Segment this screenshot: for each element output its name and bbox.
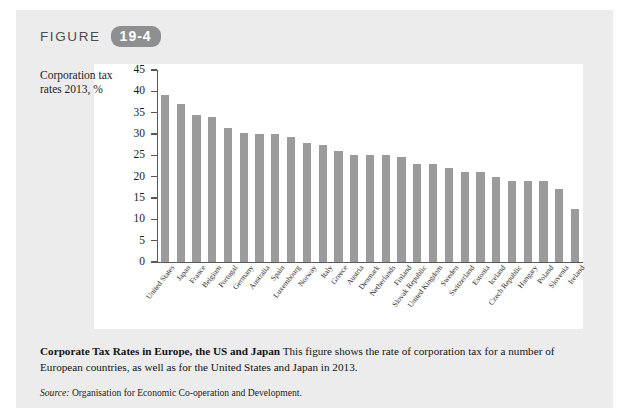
bar <box>366 155 374 262</box>
x-axis-labels: United StatesJapanFranceBelgiumPortugalG… <box>157 264 583 326</box>
bar <box>508 181 516 262</box>
bar <box>271 134 279 262</box>
bar <box>208 117 216 262</box>
source-text: Organisation for Economic Co-operation a… <box>69 387 301 398</box>
bar <box>192 115 200 262</box>
bar <box>303 143 311 262</box>
figure-caption: Corporate Tax Rates in Europe, the US an… <box>40 344 588 375</box>
bar <box>382 155 390 262</box>
bar <box>397 157 405 262</box>
bar <box>413 164 421 262</box>
bar <box>240 133 248 262</box>
bar <box>571 209 579 262</box>
bar <box>350 155 358 262</box>
bar <box>429 164 437 262</box>
y-tick-label: 15 <box>119 192 145 204</box>
y-tick-label: 25 <box>119 149 145 161</box>
bar <box>555 189 563 262</box>
y-tick-label: 45 <box>119 64 145 76</box>
bar <box>255 134 263 262</box>
y-tick-label: 30 <box>119 128 145 140</box>
y-tick-label: 0 <box>119 256 145 268</box>
bar <box>177 104 185 262</box>
bar <box>476 172 484 262</box>
bar <box>539 181 547 262</box>
y-tick-label: 35 <box>119 107 145 119</box>
bar <box>461 172 469 262</box>
source-label: Source: <box>40 387 69 398</box>
bar <box>334 151 342 262</box>
bar <box>224 128 232 262</box>
y-tick-label: 5 <box>119 235 145 247</box>
y-tick-label: 40 <box>119 85 145 97</box>
bar <box>287 137 295 262</box>
bar <box>492 177 500 262</box>
y-tick-label: 10 <box>119 213 145 225</box>
caption-title: Corporate Tax Rates in Europe, the US an… <box>40 345 280 357</box>
bar <box>524 181 532 262</box>
y-tick-label: 20 <box>119 171 145 183</box>
figure-page: FIGURE 19-4 Corporation tax rates 2013, … <box>0 0 629 417</box>
figure-source: Source: Organisation for Economic Co-ope… <box>40 387 588 398</box>
bar <box>319 145 327 262</box>
bar <box>445 168 453 262</box>
bar-series <box>157 70 583 262</box>
bar <box>161 95 169 262</box>
